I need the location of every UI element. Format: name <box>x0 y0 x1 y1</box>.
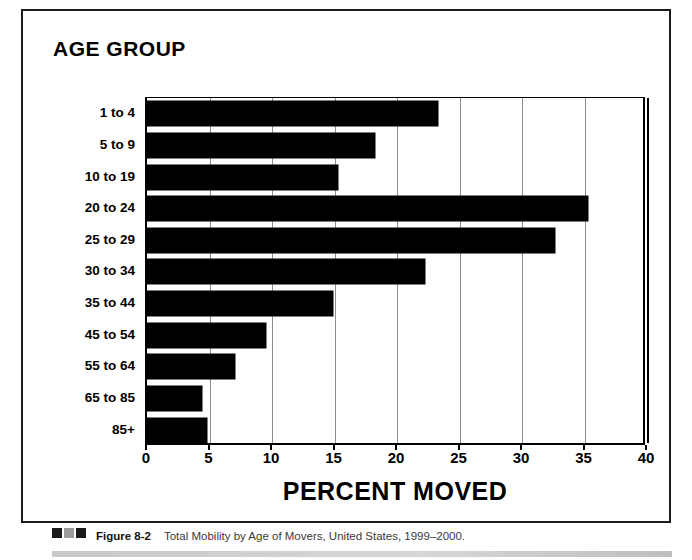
x-axis-title: PERCENT MOVED <box>145 477 645 506</box>
x-tick-label-15: 15 <box>325 449 342 466</box>
x-tick-label-5: 5 <box>204 449 212 466</box>
bar-20-to-24 <box>147 196 588 221</box>
y-tick-label-20-to-24: 20 to 24 <box>59 192 139 224</box>
x-tick-label-35: 35 <box>575 449 592 466</box>
x-tick-label-10: 10 <box>263 449 280 466</box>
bar-1-to-4 <box>147 101 438 126</box>
y-tick-label-35-to-44: 35 to 44 <box>59 287 139 319</box>
caption-figure-number: Figure 8-2 <box>96 530 151 542</box>
figure-frame: AGE GROUP 1 to 45 to 910 to 1920 to 2425… <box>21 9 671 523</box>
y-axis-title: AGE GROUP <box>53 37 186 61</box>
y-tick-label-85-: 85+ <box>59 413 139 445</box>
bar-45-to-54 <box>147 323 266 348</box>
bar-85- <box>147 418 207 443</box>
y-tick-label-25-to-29: 25 to 29 <box>59 224 139 256</box>
x-tick-label-25: 25 <box>450 449 467 466</box>
y-tick-label-1-to-4: 1 to 4 <box>59 97 139 129</box>
bar-55-to-64 <box>147 354 235 379</box>
y-tick-label-10-to-19: 10 to 19 <box>59 160 139 192</box>
bar-row <box>147 161 643 193</box>
y-tick-label-55-to-64: 55 to 64 <box>59 350 139 382</box>
caption-swatch-group <box>52 528 86 538</box>
x-tick-label-40: 40 <box>638 449 655 466</box>
bar-5-to-9 <box>147 133 375 158</box>
plot-area <box>145 97 645 445</box>
bar-row <box>147 383 643 415</box>
bar-row <box>147 225 643 257</box>
x-tick-label-20: 20 <box>388 449 405 466</box>
bar-row <box>147 351 643 383</box>
bar-row <box>147 98 643 130</box>
bar-35-to-44 <box>147 291 333 316</box>
x-tick-label-0: 0 <box>142 449 150 466</box>
gridline-40 <box>647 98 649 443</box>
bar-row <box>147 319 643 351</box>
y-tick-label-5-to-9: 5 to 9 <box>59 129 139 161</box>
caption-swatch-dark2-icon <box>76 528 86 538</box>
bar-row <box>147 193 643 225</box>
caption-swatch-mid-icon <box>64 528 74 538</box>
y-tick-label-30-to-34: 30 to 34 <box>59 255 139 287</box>
figure-caption: Figure 8-2 Total Mobility by Age of Move… <box>52 530 465 542</box>
bar-10-to-19 <box>147 165 338 190</box>
y-axis-tick-labels: 1 to 45 to 910 to 1920 to 2425 to 2930 t… <box>59 97 139 445</box>
caption-swatch-dark-icon <box>52 528 62 538</box>
caption-description: Total Mobility by Age of Movers, United … <box>164 530 465 542</box>
x-tick-label-30: 30 <box>513 449 530 466</box>
y-tick-label-65-to-85: 65 to 85 <box>59 382 139 414</box>
bar-65-to-85 <box>147 386 202 411</box>
x-axis-tick-labels: 0510152025303540 <box>23 449 692 471</box>
bar-row <box>147 130 643 162</box>
bar-row <box>147 414 643 446</box>
bar-30-to-34 <box>147 259 425 284</box>
decorative-rule <box>52 551 672 557</box>
bar-series <box>147 98 643 443</box>
bar-25-to-29 <box>147 228 555 253</box>
y-tick-label-45-to-54: 45 to 54 <box>59 318 139 350</box>
bar-row <box>147 256 643 288</box>
bar-row <box>147 288 643 320</box>
